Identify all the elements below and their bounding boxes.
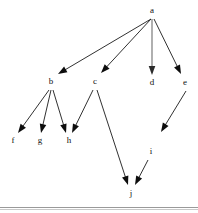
edge-e-to-i [161, 91, 186, 132]
bottom-divider [0, 207, 198, 208]
graph-node-j: j [124, 189, 138, 198]
edge-c-to-j [97, 90, 128, 185]
graph-node-b: b [44, 77, 58, 86]
graph-node-g: g [33, 136, 47, 145]
graph-node-f: f [6, 136, 20, 145]
edge-c-to-h [72, 90, 93, 133]
graph-node-i: i [144, 147, 158, 156]
graph-node-e: e [178, 78, 192, 87]
edge-b-to-h [53, 90, 67, 133]
edge-a-to-e [154, 19, 181, 74]
edge-a-to-d [149, 19, 156, 75]
graph-node-h: h [62, 136, 76, 145]
edge-i-to-j [135, 160, 148, 185]
graph-figure: abcdefghij [0, 0, 198, 213]
graph-node-d: d [145, 78, 159, 87]
edge-b-to-g [40, 90, 51, 133]
graph-node-a: a [145, 6, 159, 15]
graph-canvas [0, 0, 198, 213]
edge-a-to-c [101, 19, 151, 73]
graph-node-c: c [88, 77, 102, 86]
bottom-divider-shadow [0, 209, 198, 210]
